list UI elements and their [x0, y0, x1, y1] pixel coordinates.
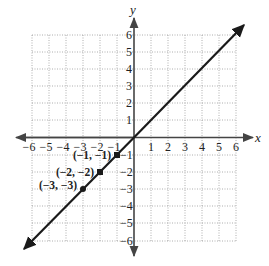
point-label: (−3, −3) [39, 179, 77, 192]
y-axis-label: y [128, 2, 136, 17]
y-tick: 2 [126, 96, 132, 110]
x-tick: 4 [199, 140, 205, 154]
y-tick: 4 [126, 62, 132, 76]
x-tick: 2 [165, 140, 171, 154]
y-tick: 1 [126, 113, 132, 127]
x-tick: −6 [23, 140, 36, 154]
y-tick: −3 [120, 182, 133, 196]
y-tick: −2 [120, 165, 133, 179]
point-label: (−2, −2) [56, 166, 94, 179]
point-label: (−1, −1) [73, 149, 111, 162]
y-tick: 3 [126, 79, 132, 93]
y-tick: 6 [126, 28, 132, 42]
point-marker [97, 169, 103, 175]
coordinate-plane: x y −6 −5 −4 −3 −2 −1 1 2 3 4 5 6 6 5 4 … [0, 0, 269, 266]
point-marker [80, 186, 86, 192]
x-tick: 3 [182, 140, 188, 154]
x-tick: −4 [57, 140, 70, 154]
line-y-equals-x [134, 25, 244, 138]
point-marker [114, 152, 120, 158]
y-tick: −5 [120, 216, 133, 230]
y-tick: 5 [126, 45, 132, 59]
x-tick: 6 [233, 140, 239, 154]
x-tick: 1 [148, 140, 154, 154]
x-tick: −5 [40, 140, 53, 154]
y-tick: −6 [120, 234, 133, 248]
x-tick: 5 [216, 140, 222, 154]
x-axis-label: x [254, 130, 261, 145]
y-tick: −4 [120, 199, 133, 213]
